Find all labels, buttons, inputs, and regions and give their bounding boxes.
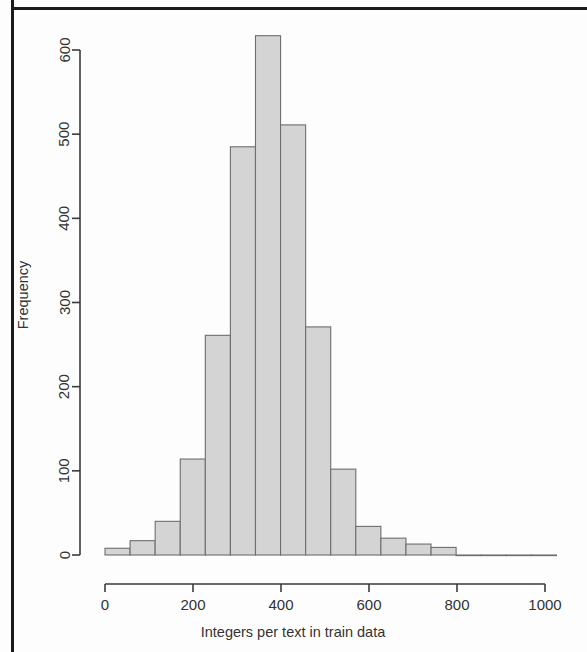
x-axis-tick-label: 1000 — [528, 596, 561, 613]
x-axis-tick-label: 400 — [268, 596, 293, 613]
y-axis-tick-label: 300 — [56, 290, 73, 315]
histogram-bar — [431, 547, 456, 555]
histogram-svg: 02004006008001000 0100200300400500600 In… — [0, 0, 587, 652]
y-axis-title: Frequency — [15, 260, 31, 329]
y-axis: 0100200300400500600 — [56, 37, 81, 559]
histogram-bar — [456, 555, 481, 556]
histogram-bars — [105, 36, 556, 556]
x-axis-title: Integers per text in train data — [201, 624, 387, 640]
y-axis-tick-label: 0 — [56, 551, 73, 559]
histogram-bar — [230, 147, 255, 555]
scanned-page: 02004006008001000 0100200300400500600 In… — [0, 0, 587, 652]
histogram-bar — [406, 544, 431, 555]
histogram-bar — [381, 538, 406, 555]
histogram-chart: 02004006008001000 0100200300400500600 In… — [0, 0, 587, 652]
histogram-bar — [105, 548, 130, 555]
y-axis-tick-label: 400 — [56, 206, 73, 231]
histogram-bar — [531, 555, 556, 556]
x-axis-tick-label: 800 — [444, 596, 469, 613]
y-axis-tick-label: 100 — [56, 458, 73, 483]
histogram-bar — [481, 555, 506, 556]
histogram-bar — [205, 335, 230, 555]
x-axis-tick-label: 0 — [101, 596, 109, 613]
y-axis-tick-label: 200 — [56, 374, 73, 399]
histogram-bar — [255, 36, 280, 555]
histogram-bar — [155, 521, 180, 555]
histogram-bar — [331, 469, 356, 555]
x-axis: 02004006008001000 — [101, 584, 562, 613]
histogram-bar — [306, 327, 331, 555]
histogram-bar — [130, 541, 155, 555]
histogram-bar — [180, 459, 205, 555]
y-axis-tick-label: 500 — [56, 122, 73, 147]
histogram-bar — [281, 125, 306, 555]
x-axis-tick-label: 600 — [356, 596, 381, 613]
histogram-bar — [506, 555, 531, 556]
histogram-bar — [356, 526, 381, 555]
x-axis-tick-label: 200 — [180, 596, 205, 613]
y-axis-tick-label: 600 — [56, 37, 73, 62]
